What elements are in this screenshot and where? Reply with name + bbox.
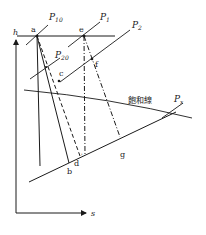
point-b-label: b — [67, 167, 72, 176]
point-f-dot — [91, 58, 94, 61]
point-a-label: a — [31, 25, 36, 34]
axes — [16, 40, 86, 213]
saturation-line-label: 飽和線 — [128, 95, 152, 105]
p2-label: P2 — [131, 20, 142, 31]
point-f-label: f — [95, 60, 99, 69]
isentropic-line-a — [37, 36, 40, 166]
point-e-label: e — [79, 25, 84, 34]
point-e-dot — [83, 35, 86, 38]
s-axis-label: s — [91, 209, 95, 218]
point-a-dot — [36, 35, 39, 38]
point-c-dot — [58, 80, 61, 83]
p1-label: P1 — [99, 12, 110, 23]
exhaust-pressure-line — [29, 112, 176, 182]
pressure-line-p2 — [60, 30, 130, 82]
point-d-prime-label: ' — [81, 152, 83, 159]
point-c-label: c — [59, 69, 64, 78]
p10-label: P10 — [48, 12, 63, 23]
isentropic-line-e — [84, 36, 85, 155]
hs-diagram: h s a e c f b d ' g P10 P1 P2 P20 Px 飽和線 — [0, 0, 206, 235]
point-g-label: g — [120, 150, 125, 159]
point-d-label: d — [74, 159, 79, 168]
px-label: Px — [173, 94, 184, 105]
pressure-line-px — [162, 103, 183, 118]
point-p20-dot — [45, 66, 47, 68]
p20-label: P20 — [54, 50, 69, 61]
